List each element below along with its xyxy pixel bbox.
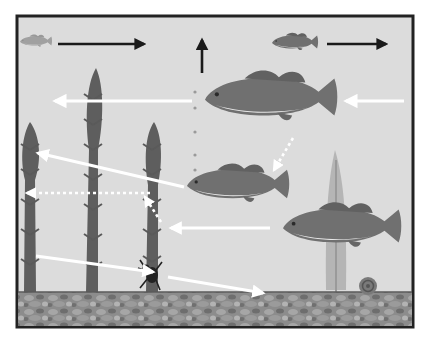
gravel-bed [18, 292, 412, 326]
food-web-diagram [0, 0, 431, 341]
snail [359, 277, 377, 295]
